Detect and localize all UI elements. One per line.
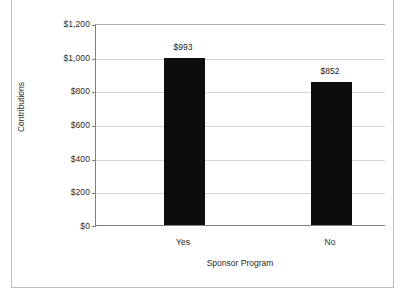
y-axis-tick-labels: $1,200 $1,000 $800 $600 $400 $200 $0: [26, 24, 90, 226]
y-tick-label: $1,000: [30, 53, 90, 63]
y-tick-label: $1,200: [30, 19, 90, 29]
y-tick-label: $400: [30, 154, 90, 164]
bar-value-label-no: $852: [295, 66, 365, 76]
bar-value-label-yes: $993: [148, 42, 218, 52]
y-tick-label: $800: [30, 86, 90, 96]
x-tick-label-yes: Yes: [143, 237, 223, 247]
y-tick-label: $0: [30, 221, 90, 231]
gridline: [96, 59, 385, 60]
y-tick-mark: [92, 25, 96, 26]
plot-area: [95, 24, 385, 226]
y-tick-mark: [92, 59, 96, 60]
y-tick-mark: [92, 160, 96, 161]
y-tick-label: $200: [30, 187, 90, 197]
y-tick-mark: [92, 92, 96, 93]
bar-no[interactable]: [311, 82, 352, 225]
y-tick-label: $600: [30, 120, 90, 130]
y-axis-title: Contributions: [16, 62, 26, 152]
y-tick-mark: [92, 193, 96, 194]
x-axis-title: Sponsor Program: [95, 258, 385, 268]
x-tick-label-no: No: [290, 237, 370, 247]
bar-yes[interactable]: [164, 58, 205, 225]
y-tick-mark: [92, 126, 96, 127]
bar-chart: $1,200 $1,000 $800 $600 $400 $200 $0 Con…: [0, 0, 409, 302]
y-tick-mark: [92, 226, 96, 227]
